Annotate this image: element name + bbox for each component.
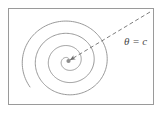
spiral-figure-svg: θ = c <box>0 0 164 119</box>
figure-container: θ = c <box>0 0 164 119</box>
spiral-center-point <box>66 59 70 63</box>
theta-equals-c-label: θ = c <box>124 35 147 47</box>
